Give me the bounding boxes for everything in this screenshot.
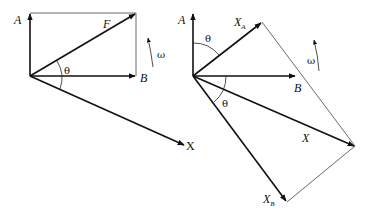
vector-x-a: [193, 23, 261, 76]
label-x-a: XA: [233, 15, 246, 31]
label-theta-left: θ: [64, 65, 70, 76]
right-diagram: A XA θ B θ ω X XB: [177, 13, 355, 208]
theta-arc-left: [57, 61, 62, 89]
label-a-right: A: [177, 13, 186, 27]
label-x-left: X: [186, 139, 195, 153]
vector-x-left: [30, 76, 184, 145]
omega-rotation-arrow-left: [148, 38, 153, 67]
vector-x-right: [193, 76, 354, 146]
label-omega-right: ω: [307, 55, 315, 66]
right-lower-construction-line: [287, 146, 355, 202]
left-diagram: A F B θ ω X: [13, 13, 195, 153]
label-f: F: [102, 17, 111, 31]
right-upper-construction-line: [262, 22, 355, 146]
vector-f: [30, 14, 135, 76]
label-b-left: B: [140, 71, 148, 85]
theta-arc-right-top: [193, 43, 219, 55]
label-b-right: B: [294, 81, 302, 95]
phasor-diagram-canvas: A F B θ ω X A XA θ B θ ω X XB: [0, 0, 370, 216]
label-theta-right-bottom: θ: [222, 98, 228, 109]
label-x-b: XB: [262, 192, 275, 208]
label-x-right: X: [301, 131, 310, 145]
label-a-left: A: [13, 13, 22, 27]
vector-x-b: [193, 76, 286, 201]
label-omega-left: ω: [157, 49, 165, 60]
label-theta-right-top: θ: [205, 33, 211, 44]
